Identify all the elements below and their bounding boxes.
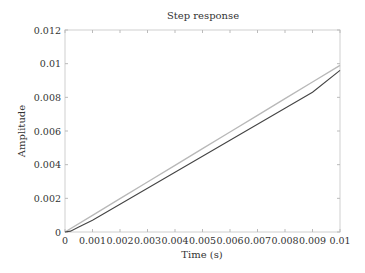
x-axis-ticks: 00.0010.0020.0030.0040.0050.0060.0070.00… bbox=[62, 30, 351, 246]
y-tick-label: 0.01 bbox=[40, 58, 61, 69]
x-tick-label: 0.007 bbox=[244, 235, 271, 246]
y-axis-label: Amplitude bbox=[16, 105, 27, 158]
y-axis-ticks: 00.0020.0040.0060.0080.010.012 bbox=[34, 25, 340, 238]
plot-frame bbox=[65, 30, 340, 232]
y-tick-label: 0.012 bbox=[34, 25, 61, 36]
x-tick-label: 0.009 bbox=[299, 235, 326, 246]
x-tick-label: 0.006 bbox=[216, 235, 243, 246]
y-tick-label: 0.008 bbox=[34, 92, 61, 103]
x-tick-label: 0.002 bbox=[106, 235, 133, 246]
step-response-chart: Step response 00.0010.0020.0030.0040.005… bbox=[0, 0, 365, 273]
x-tick-label: 0.008 bbox=[271, 235, 298, 246]
y-tick-label: 0.004 bbox=[34, 159, 61, 170]
series-line-0 bbox=[65, 65, 340, 232]
y-tick-label: 0 bbox=[55, 227, 61, 238]
x-tick-label: 0.004 bbox=[161, 235, 188, 246]
x-tick-label: 0.003 bbox=[134, 235, 161, 246]
x-axis-label: Time (s) bbox=[181, 249, 222, 260]
data-series bbox=[65, 65, 340, 232]
x-tick-label: 0 bbox=[62, 235, 68, 246]
chart-title: Step response bbox=[167, 10, 239, 21]
x-tick-label: 0.001 bbox=[79, 235, 106, 246]
y-tick-label: 0.006 bbox=[34, 126, 61, 137]
y-tick-label: 0.002 bbox=[34, 193, 61, 204]
x-tick-label: 0.005 bbox=[189, 235, 216, 246]
x-tick-label: 0.01 bbox=[329, 235, 350, 246]
